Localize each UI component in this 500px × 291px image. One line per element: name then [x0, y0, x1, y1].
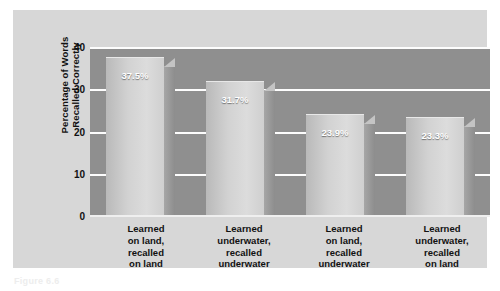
figure-root: Percentage of Words Recalled Correctly 4…: [0, 0, 500, 291]
bar-3-side: [364, 123, 375, 217]
bar-2-value-label: 31.7%: [206, 94, 264, 105]
bar-4: 23.3%: [406, 118, 464, 217]
y-tick-20: 20: [51, 127, 85, 138]
x-axis-baseline: [90, 215, 490, 217]
bar-1-side: [164, 66, 175, 217]
bar-2-side: [264, 90, 275, 217]
plot-area: 37.5% 31.7% 23.9% 23.3%: [90, 47, 490, 217]
bar-1-value-label: 37.5%: [106, 70, 164, 81]
chart-panel: Percentage of Words Recalled Correctly 4…: [13, 10, 487, 268]
category-label-1: Learned on land, recalled on land: [90, 223, 202, 270]
category-4-line-1: Learned: [386, 223, 498, 235]
category-3-line-3: recalled: [288, 247, 400, 259]
bar-3-value-label: 23.9%: [306, 127, 364, 138]
gridline-40: [90, 47, 490, 49]
category-1-line-4: on land: [90, 258, 202, 270]
category-1-line-1: Learned: [90, 223, 202, 235]
y-tick-30: 30: [51, 84, 85, 95]
category-1-line-3: recalled: [90, 247, 202, 259]
x-axis-categories: Learned on land, recalled on land Learne…: [90, 223, 490, 275]
y-tick-40: 40: [51, 42, 85, 53]
category-2-line-4: underwater: [188, 258, 300, 270]
bar-1-front: [106, 57, 164, 217]
category-4-line-2: underwater,: [386, 235, 498, 247]
category-2-line-2: underwater,: [188, 235, 300, 247]
bar-2: 31.7%: [206, 82, 264, 217]
bar-4-side: [464, 126, 475, 217]
category-label-4: Learned underwater, recalled on land: [386, 223, 498, 270]
y-tick-0: 0: [51, 211, 85, 222]
y-tick-10: 10: [51, 169, 85, 180]
category-4-line-4: on land: [386, 258, 498, 270]
bar-4-value-label: 23.3%: [406, 130, 464, 141]
category-3-line-2: on land,: [288, 235, 400, 247]
category-label-2: Learned underwater, recalled underwater: [188, 223, 300, 270]
category-4-line-3: recalled: [386, 247, 498, 259]
y-axis-ticks: 40 30 20 10 0: [51, 20, 85, 225]
bar-1: 37.5%: [106, 58, 164, 217]
category-label-3: Learned on land, recalled underwater: [288, 223, 400, 270]
category-2-line-1: Learned: [188, 223, 300, 235]
category-2-line-3: recalled: [188, 247, 300, 259]
bar-3: 23.9%: [306, 115, 364, 217]
category-3-line-1: Learned: [288, 223, 400, 235]
category-1-line-2: on land,: [90, 235, 202, 247]
category-3-line-4: underwater: [288, 258, 400, 270]
figure-caption: Figure 6.6: [14, 276, 60, 286]
